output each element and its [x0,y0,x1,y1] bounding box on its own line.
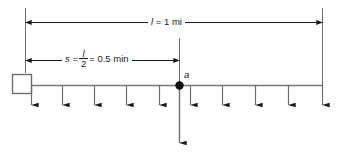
fixed-support-box [13,75,32,94]
dimension-label-total-length: l = 1 mi [148,16,185,26]
total-length-value: = 1 mi [156,16,182,27]
half-length-value: = 0.5 min [89,53,128,64]
half-length-fraction: l2 [79,50,88,68]
point-a-label: a [184,70,189,80]
point-a-node-dot [175,81,183,89]
half-length-symbol: s = [65,53,78,64]
dimension-label-half-length: s =l2= 0.5 min [62,50,132,68]
beam-loading-diagram: l = 1 mi s =l2= 0.5 min a [0,0,337,155]
fraction-denominator: 2 [79,59,88,68]
